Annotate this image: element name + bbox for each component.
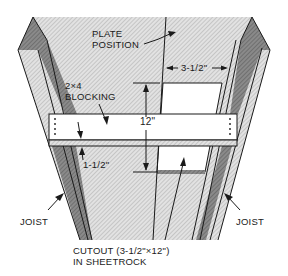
label-cutout-line1: CUTOUT (3-1/2"×12") — [73, 246, 170, 256]
label-dim-width: 3-1/2" — [181, 63, 207, 73]
label-joist-left: JOIST — [20, 217, 48, 227]
label-joist-right: JOIST — [236, 217, 264, 227]
label-blocking-line1: 2×4 — [65, 81, 82, 91]
label-dim-thickness: 1-1/2" — [83, 160, 109, 170]
label-plate-line2: POSITION — [92, 40, 139, 50]
arrow-icon — [55, 193, 64, 201]
blocking-board-edge — [49, 140, 237, 146]
label-dim-height: 12" — [140, 117, 155, 127]
label-cutout-line2: IN SHEETROCK — [73, 257, 147, 267]
blocking-diagram — [0, 0, 288, 276]
label-blocking-line2: BLOCKING — [65, 92, 116, 102]
label-plate-line1: PLATE — [92, 29, 122, 39]
